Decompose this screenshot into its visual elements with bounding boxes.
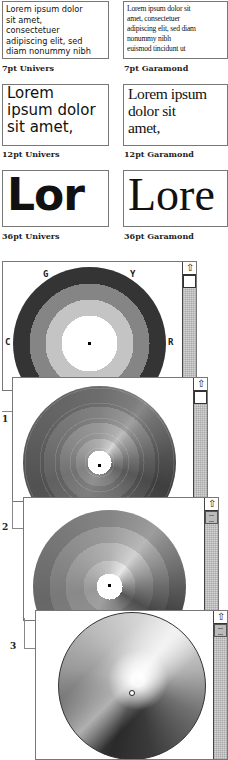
wheel-center-marker bbox=[98, 464, 101, 467]
smooth-color-wheel[interactable] bbox=[58, 612, 206, 760]
sample-12pt-garamond: Lorem ipsum dolor sit amet, bbox=[123, 84, 228, 146]
sample-line: dolor sit bbox=[128, 102, 223, 119]
color-picker-window-0: G Y C R ⇧ bbox=[2, 261, 197, 391]
sample-line: amet, bbox=[128, 119, 223, 136]
sample-line: ipsum dolor bbox=[7, 102, 104, 119]
label-yellow: Y bbox=[130, 269, 135, 279]
wheel-center-marker bbox=[88, 342, 91, 345]
scroll-thumb[interactable] bbox=[214, 624, 227, 637]
caption-12pt-univers: 12pt Univers bbox=[2, 149, 60, 159]
scroll-thumb[interactable] bbox=[205, 511, 218, 524]
color-picker-window-1: ⇧ bbox=[12, 377, 208, 502]
vertical-scrollbar[interactable]: ⇧ bbox=[204, 498, 218, 620]
sample-line: diam nonummy nibh bbox=[6, 46, 105, 57]
sample-line: sit amet, bbox=[7, 119, 104, 136]
caption-7pt-garamond: 7pt Garamond bbox=[124, 63, 188, 73]
scroll-up-arrow-icon[interactable]: ⇧ bbox=[205, 498, 218, 511]
step-label-2: 2 bbox=[2, 522, 8, 532]
scroll-thumb[interactable] bbox=[183, 275, 196, 288]
sample-line: consectetuer bbox=[6, 25, 105, 36]
step-bracket-1 bbox=[2, 380, 12, 412]
vertical-scrollbar[interactable]: ⇧ bbox=[182, 262, 196, 390]
step-label-1: 1 bbox=[2, 414, 8, 424]
label-red: R bbox=[168, 337, 173, 347]
sample-7pt-univers: Lorem ipsum dolor sit amet, consectetuer… bbox=[2, 1, 109, 59]
segmented-color-wheel-2[interactable] bbox=[33, 510, 186, 621]
scroll-up-arrow-icon[interactable]: ⇧ bbox=[183, 262, 196, 275]
sample-line: adipiscing elit, sed bbox=[6, 36, 105, 47]
sample-line: Lorem ipsum bbox=[128, 85, 223, 102]
segmented-color-wheel-1[interactable] bbox=[23, 386, 176, 502]
sample-text: Lore bbox=[128, 171, 223, 219]
scroll-up-arrow-icon[interactable]: ⇧ bbox=[194, 378, 207, 391]
sample-line: sit amet, bbox=[6, 15, 105, 26]
wheel-selection-marker[interactable] bbox=[129, 690, 135, 696]
step-label-3: 3 bbox=[10, 641, 16, 651]
sample-line: nonummy nibh bbox=[127, 34, 224, 44]
sample-line: amet, consectetuer bbox=[127, 14, 224, 24]
sample-line: adipiscing elit, sed diam bbox=[127, 24, 224, 34]
caption-36pt-univers: 36pt Univers bbox=[2, 231, 60, 241]
caption-36pt-garamond: 36pt Garamond bbox=[124, 231, 194, 241]
sample-7pt-garamond: Lorem ipsum dolor sit amet, consectetuer… bbox=[123, 1, 228, 59]
vertical-scrollbar[interactable]: ⇧ bbox=[193, 378, 207, 501]
concentric-color-wheel[interactable] bbox=[13, 267, 166, 391]
sample-line: euismod tincidunt ut bbox=[127, 44, 224, 54]
sample-36pt-univers: Lor bbox=[2, 170, 109, 227]
caption-12pt-garamond: 12pt Garamond bbox=[124, 149, 194, 159]
sample-12pt-univers: Lorem ipsum dolor sit amet, bbox=[2, 84, 109, 146]
sample-line: Lorem ipsum dolor sit bbox=[127, 4, 224, 14]
sample-36pt-garamond: Lore bbox=[123, 170, 228, 227]
vertical-scrollbar[interactable]: ⇧ bbox=[213, 611, 227, 759]
scroll-up-arrow-icon[interactable]: ⇧ bbox=[214, 611, 227, 624]
label-cyan: C bbox=[5, 337, 10, 347]
scroll-thumb[interactable] bbox=[194, 391, 207, 404]
caption-7pt-univers: 7pt Univers bbox=[2, 63, 54, 73]
color-picker-window-2: ⇧ bbox=[23, 497, 219, 621]
wheel-center-marker bbox=[108, 584, 111, 587]
label-green: G bbox=[43, 269, 48, 279]
sample-text: Lor bbox=[7, 171, 104, 219]
sample-line: Lorem bbox=[7, 85, 104, 102]
sample-line: Lorem ipsum dolor bbox=[6, 4, 105, 15]
color-picker-window-3: ⇧ bbox=[35, 610, 228, 760]
